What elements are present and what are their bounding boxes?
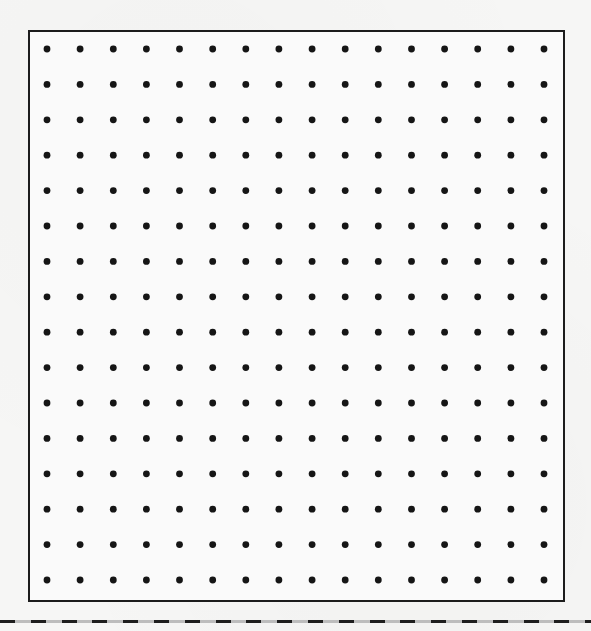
- grid-dot: [77, 470, 84, 477]
- grid-dot: [242, 152, 249, 159]
- grid-dot: [441, 152, 448, 159]
- grid-dot: [276, 329, 283, 336]
- grid-dot: [143, 46, 150, 53]
- grid-dot: [143, 400, 150, 407]
- grid-dot: [474, 329, 481, 336]
- grid-dot: [77, 258, 84, 265]
- grid-dot: [375, 470, 382, 477]
- grid-dot: [508, 400, 515, 407]
- grid-dot: [176, 293, 183, 300]
- grid-dot: [143, 329, 150, 336]
- grid-dot: [209, 364, 216, 371]
- grid-dot: [508, 46, 515, 53]
- grid-dot: [110, 187, 117, 194]
- grid-dot: [375, 506, 382, 513]
- grid-dot: [309, 152, 316, 159]
- grid-dot: [342, 329, 349, 336]
- grid-dot: [508, 577, 515, 584]
- grid-dot: [110, 258, 117, 265]
- grid-dot: [541, 506, 548, 513]
- grid-dot: [508, 258, 515, 265]
- grid-dot: [276, 470, 283, 477]
- grid-dot: [541, 541, 548, 548]
- grid-dot: [176, 400, 183, 407]
- grid-dot: [408, 400, 415, 407]
- grid-dot: [110, 152, 117, 159]
- grid-dot: [176, 258, 183, 265]
- grid-dot: [474, 364, 481, 371]
- grid-dot: [276, 364, 283, 371]
- grid-dot: [474, 400, 481, 407]
- worksheet-page: [0, 0, 591, 631]
- grid-dot: [309, 258, 316, 265]
- grid-dot: [474, 187, 481, 194]
- grid-dot: [408, 258, 415, 265]
- grid-dot: [474, 46, 481, 53]
- grid-dot: [474, 152, 481, 159]
- grid-dot: [441, 364, 448, 371]
- grid-dot: [408, 81, 415, 88]
- grid-dot: [408, 577, 415, 584]
- grid-dot: [176, 506, 183, 513]
- grid-dot: [209, 293, 216, 300]
- grid-dot: [143, 435, 150, 442]
- grid-dot: [77, 506, 84, 513]
- grid-dot: [77, 364, 84, 371]
- grid-dot: [508, 470, 515, 477]
- grid-dot: [508, 116, 515, 123]
- grid-dot: [110, 470, 117, 477]
- grid-dot: [309, 329, 316, 336]
- grid-dot: [44, 152, 51, 159]
- grid-dot: [44, 46, 51, 53]
- grid-dot: [77, 577, 84, 584]
- grid-dot: [408, 293, 415, 300]
- grid-dot: [408, 541, 415, 548]
- grid-dot: [176, 187, 183, 194]
- grid-dot: [441, 400, 448, 407]
- grid-dot: [508, 152, 515, 159]
- grid-dot: [77, 400, 84, 407]
- grid-dot: [209, 435, 216, 442]
- grid-dot: [474, 293, 481, 300]
- grid-dot: [143, 470, 150, 477]
- grid-dot: [209, 470, 216, 477]
- grid-dot: [441, 293, 448, 300]
- grid-dot: [541, 187, 548, 194]
- grid-dot: [474, 506, 481, 513]
- grid-dot: [541, 577, 548, 584]
- grid-dot: [276, 506, 283, 513]
- grid-dot: [309, 435, 316, 442]
- grid-dot: [309, 506, 316, 513]
- grid-dot: [44, 116, 51, 123]
- grid-dot: [209, 152, 216, 159]
- grid-dot: [441, 577, 448, 584]
- grid-dot: [143, 364, 150, 371]
- grid-dot: [375, 152, 382, 159]
- grid-dot: [541, 470, 548, 477]
- grid-dot: [242, 364, 249, 371]
- grid-dot: [143, 577, 150, 584]
- grid-dot: [77, 329, 84, 336]
- grid-dot: [176, 435, 183, 442]
- grid-dot: [143, 541, 150, 548]
- grid-dot: [110, 506, 117, 513]
- grid-dot: [342, 470, 349, 477]
- grid-dot: [143, 506, 150, 513]
- grid-dot: [44, 470, 51, 477]
- grid-dot: [342, 577, 349, 584]
- grid-dot: [176, 470, 183, 477]
- grid-dot: [242, 81, 249, 88]
- grid-dot: [508, 223, 515, 230]
- grid-dot: [342, 435, 349, 442]
- grid-dot: [77, 152, 84, 159]
- grid-dot: [44, 506, 51, 513]
- grid-dot: [44, 541, 51, 548]
- grid-dot: [342, 81, 349, 88]
- grid-dot: [209, 400, 216, 407]
- grid-dot: [242, 400, 249, 407]
- grid-dot: [342, 364, 349, 371]
- grid-dot: [441, 46, 448, 53]
- grid-dot: [110, 223, 117, 230]
- grid-dot: [508, 293, 515, 300]
- grid-dot: [309, 293, 316, 300]
